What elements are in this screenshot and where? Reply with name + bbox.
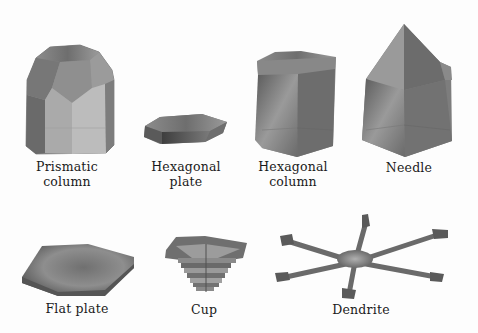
- cup-crystal: [165, 236, 247, 292]
- prismatic-column-crystal: [26, 45, 114, 154]
- label-hexagonal-column: Hexagonal column: [258, 159, 328, 189]
- label-hexagonal-plate: Hexagonal plate: [151, 159, 221, 189]
- label-line: Cup: [191, 302, 217, 317]
- label-cup: Cup: [191, 302, 217, 317]
- label-line: plate: [151, 174, 221, 189]
- hexagonal-plate-crystal: [144, 114, 227, 144]
- hexagonal-column-crystal: [255, 51, 336, 157]
- label-needle: Needle: [386, 160, 432, 175]
- needle-crystal: [362, 24, 452, 157]
- label-line: Dendrite: [332, 302, 389, 317]
- label-line: Hexagonal: [258, 159, 328, 174]
- label-line: Needle: [386, 160, 432, 175]
- label-line: Hexagonal: [151, 159, 221, 174]
- label-prismatic-column: Prismatic column: [36, 159, 98, 189]
- label-flat-plate: Flat plate: [46, 301, 109, 316]
- crystal-forms-figure: Prismatic column Hexagonal plate Hexagon…: [0, 0, 478, 333]
- label-line: Prismatic: [36, 159, 98, 174]
- label-line: column: [258, 174, 328, 189]
- flat-plate-crystal: [22, 244, 134, 296]
- label-line: Flat plate: [46, 301, 109, 316]
- label-dendrite: Dendrite: [332, 302, 389, 317]
- dendrite-crystal: [275, 214, 448, 299]
- label-line: column: [36, 174, 98, 189]
